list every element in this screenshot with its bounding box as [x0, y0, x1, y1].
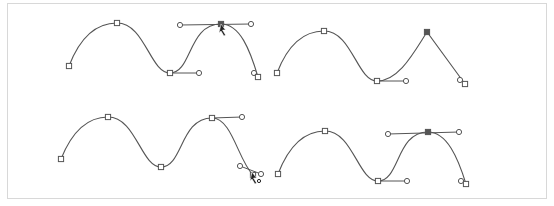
anchor-point[interactable]	[322, 128, 327, 133]
anchor-point[interactable]	[462, 81, 467, 86]
anchor-point[interactable]	[114, 20, 119, 25]
bezier-path[interactable]	[278, 131, 466, 184]
anchor-point[interactable]	[209, 115, 214, 120]
direction-handle[interactable]	[456, 129, 461, 134]
bezier-path[interactable]	[69, 23, 258, 77]
direction-handle[interactable]	[258, 171, 263, 176]
anchor-point[interactable]	[66, 63, 71, 68]
bezier-path[interactable]	[61, 117, 253, 175]
direction-handle[interactable]	[385, 131, 390, 136]
anchor-point[interactable]	[374, 78, 379, 83]
direction-handle[interactable]	[457, 77, 462, 82]
anchor-point[interactable]	[274, 70, 279, 75]
direction-handle[interactable]	[404, 178, 409, 183]
bezier-path[interactable]	[277, 31, 465, 84]
panel-top-left	[66, 20, 260, 79]
direction-handle[interactable]	[403, 78, 408, 83]
selected-anchor-point[interactable]	[425, 129, 430, 134]
anchor-point[interactable]	[255, 74, 260, 79]
path-canvas	[0, 0, 554, 206]
anchor-point[interactable]	[463, 181, 468, 186]
direction-handle[interactable]	[177, 22, 182, 27]
direction-handle[interactable]	[248, 21, 253, 26]
direction-handle[interactable]	[239, 114, 244, 119]
panel-bottom-left	[58, 114, 263, 184]
panel-top-right	[274, 28, 467, 86]
anchor-point[interactable]	[321, 28, 326, 33]
anchor-point[interactable]	[158, 164, 163, 169]
anchor-point[interactable]	[105, 114, 110, 119]
direction-handle[interactable]	[196, 70, 201, 75]
anchor-point[interactable]	[167, 70, 172, 75]
direction-line	[180, 24, 251, 25]
direction-handle[interactable]	[458, 178, 463, 183]
direction-handle[interactable]	[237, 163, 242, 168]
anchor-point[interactable]	[58, 156, 63, 161]
panel-bottom-right	[275, 128, 468, 186]
anchor-point[interactable]	[375, 178, 380, 183]
direction-line	[212, 117, 242, 118]
anchor-point[interactable]	[275, 171, 280, 176]
selected-anchor-point[interactable]	[424, 29, 429, 34]
